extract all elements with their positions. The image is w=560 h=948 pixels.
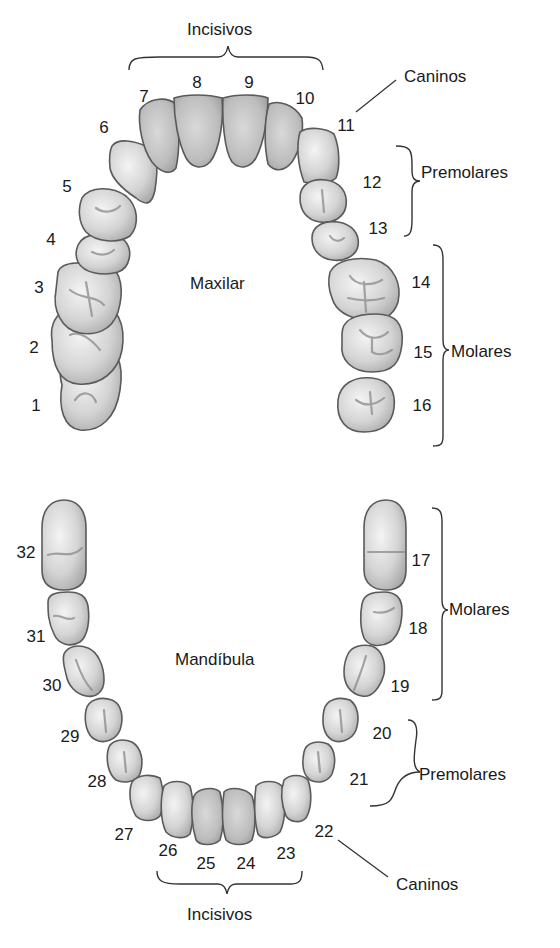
tooth-27 [130, 775, 163, 820]
tooth-30 [63, 646, 104, 696]
tooth-number-25: 25 [197, 855, 216, 872]
tooth-number-16: 16 [413, 397, 432, 414]
tooth-10 [265, 103, 302, 170]
upper-molars-brace [433, 245, 449, 446]
tooth-21 [303, 742, 335, 782]
lower-molars-brace [432, 508, 448, 700]
upper-arch [52, 46, 449, 446]
tooth-20 [323, 698, 358, 741]
tooth-9 [223, 95, 268, 167]
teeth-drawing [0, 0, 560, 948]
upper-arch-title: Maxilar [190, 275, 245, 292]
dental-chart: Incisivos Caninos Premolares Molares Max… [0, 0, 560, 948]
tooth-25 [192, 789, 223, 845]
tooth-number-22: 22 [315, 823, 334, 840]
tooth-number-8: 8 [192, 74, 201, 91]
tooth-number-10: 10 [296, 90, 315, 107]
tooth-number-28: 28 [88, 773, 107, 790]
tooth-19 [344, 645, 385, 696]
tooth-13 [312, 222, 358, 261]
tooth-8 [174, 95, 223, 167]
tooth-number-14: 14 [412, 274, 431, 291]
tooth-29 [85, 698, 122, 741]
lower-arch [42, 500, 448, 894]
tooth-28 [107, 740, 142, 782]
tooth-15 [342, 314, 403, 372]
upper-canine-leader [356, 80, 396, 112]
tooth-number-32: 32 [17, 544, 36, 561]
tooth-number-24: 24 [237, 855, 256, 872]
tooth-12 [300, 180, 346, 223]
tooth-number-30: 30 [43, 677, 62, 694]
tooth-11 [298, 128, 339, 183]
tooth-18 [361, 592, 402, 645]
lower-molars-label: Molares [449, 601, 509, 618]
upper-incisors-brace [129, 46, 323, 70]
tooth-number-12: 12 [363, 174, 382, 191]
tooth-number-2: 2 [29, 339, 38, 356]
tooth-number-11: 11 [337, 117, 355, 134]
tooth-number-13: 13 [369, 220, 388, 237]
tooth-number-20: 20 [373, 725, 392, 742]
tooth-number-1: 1 [31, 397, 40, 414]
tooth-31 [48, 592, 89, 645]
tooth-24 [223, 789, 255, 845]
upper-premolars-brace [396, 146, 420, 236]
upper-canines-label: Caninos [404, 68, 466, 85]
tooth-number-5: 5 [62, 178, 71, 195]
tooth-23 [255, 782, 285, 838]
tooth-number-7: 7 [139, 88, 148, 105]
tooth-number-26: 26 [159, 842, 178, 859]
tooth-number-23: 23 [277, 845, 296, 862]
tooth-number-4: 4 [46, 231, 55, 248]
tooth-number-29: 29 [61, 728, 80, 745]
lower-canine-leader [338, 840, 388, 877]
tooth-16 [338, 378, 395, 432]
tooth-number-19: 19 [391, 678, 410, 695]
tooth-14 [329, 259, 399, 321]
tooth-number-21: 21 [350, 771, 369, 788]
tooth-5 [79, 189, 136, 241]
tooth-17 [364, 500, 406, 590]
lower-incisors-brace [157, 871, 302, 894]
lower-arch-title: Mandíbula [175, 651, 254, 668]
tooth-number-6: 6 [99, 119, 108, 136]
tooth-number-9: 9 [244, 74, 253, 91]
lower-premolars-label: Premolares [419, 766, 506, 783]
tooth-number-3: 3 [34, 279, 43, 296]
tooth-number-17: 17 [412, 552, 431, 569]
lower-canines-label: Caninos [396, 876, 458, 893]
tooth-number-15: 15 [414, 344, 433, 361]
tooth-number-27: 27 [115, 826, 134, 843]
tooth-32 [42, 500, 86, 590]
upper-incisors-label: Incisivos [187, 21, 252, 38]
tooth-number-18: 18 [409, 620, 428, 637]
tooth-number-31: 31 [27, 628, 46, 645]
upper-premolars-label: Premolares [421, 164, 508, 181]
upper-molars-label: Molares [451, 343, 511, 360]
lower-incisors-label: Incisivos [187, 906, 252, 923]
tooth-22 [282, 776, 311, 822]
tooth-26 [161, 782, 193, 838]
